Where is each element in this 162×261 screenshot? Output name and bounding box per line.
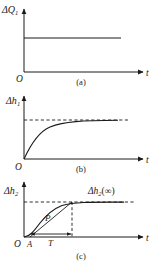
response-curve-c <box>24 202 124 237</box>
panel-c-plot: Δh2 Δh2(∞) t O A T P (c) <box>0 174 162 261</box>
x-axis-label-c: t <box>146 233 149 243</box>
time-constant-label-c: T <box>48 238 54 248</box>
origin-label-a: O <box>16 74 23 84</box>
panel-a: ΔQ1 t O (a) <box>0 0 162 87</box>
y-axis-label-b: Δh1 <box>5 95 20 107</box>
caption-c: (c) <box>76 251 86 261</box>
origin-label-c: O <box>14 239 21 249</box>
caption-b: (b) <box>76 164 86 174</box>
origin-label-b: O <box>15 162 22 172</box>
inflection-point-label-c: P <box>44 213 51 223</box>
tangent-line-c <box>30 202 72 237</box>
panel-b-plot: Δh1 t O (b) <box>0 87 162 174</box>
y-axis-label-c: Δh2 <box>3 185 19 197</box>
panel-c: Δh2 Δh2(∞) t O A T P (c) <box>0 174 162 261</box>
caption-a: (a) <box>76 77 86 87</box>
y-axis-label-a: ΔQ1 <box>1 4 18 16</box>
dead-time-label-c: A <box>26 239 33 249</box>
figure-container: ΔQ1 t O (a) Δh1 t O (b) <box>0 0 162 261</box>
x-axis-label-a: t <box>146 68 149 78</box>
x-axis-label-b: t <box>146 155 149 165</box>
panel-a-plot: ΔQ1 t O (a) <box>0 0 162 87</box>
panel-b: Δh1 t O (b) <box>0 87 162 174</box>
exponential-curve-b <box>24 120 118 159</box>
steady-state-label-c: Δh2(∞) <box>87 186 115 197</box>
